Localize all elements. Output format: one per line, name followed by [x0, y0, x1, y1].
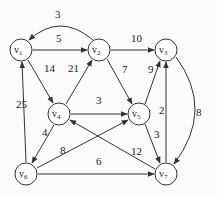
weight-v3-v7: 8 — [196, 106, 202, 118]
node-v5: v5 — [128, 103, 150, 125]
weight-v2-v3: 10 — [131, 32, 143, 44]
weight-v5-v7: 3 — [154, 128, 160, 140]
node-v7: v7 — [155, 163, 177, 185]
weight-v6-v5: 8 — [60, 144, 66, 156]
weight-v2-v1: 3 — [55, 8, 61, 20]
edge-v7-v4 — [70, 120, 155, 169]
weight-v7-v4: 12 — [131, 145, 142, 157]
node-v3: v3 — [155, 39, 177, 61]
node-v2: v2 — [88, 39, 110, 61]
weight-v4-v5: 3 — [96, 94, 102, 106]
edge-v2-v5 — [107, 59, 132, 104]
node-v6: v6 — [15, 163, 37, 185]
weight-v5-v3: 9 — [148, 63, 154, 75]
weight-v2-v5: 7 — [122, 63, 128, 75]
edge-v6-v1 — [22, 62, 26, 162]
weight-v6-v1: 25 — [16, 98, 28, 110]
node-v4: v4 — [48, 103, 70, 125]
weight-v1-v2: 5 — [56, 32, 62, 44]
edge-v3-v7 — [174, 57, 195, 164]
weight-v1-v4: 14 — [44, 62, 56, 74]
weight-v4-v6: 4 — [42, 126, 48, 138]
weight-v6-v7: 6 — [96, 155, 102, 167]
node-v1: v1 — [10, 39, 32, 61]
weight-v4-v2: 21 — [68, 62, 79, 74]
weight-v7-v3: 2 — [159, 104, 165, 116]
directed-weighted-graph: 3 5 14 21 10 7 9 2 8 3 3 25 4 8 6 12 v1 … — [0, 0, 217, 197]
